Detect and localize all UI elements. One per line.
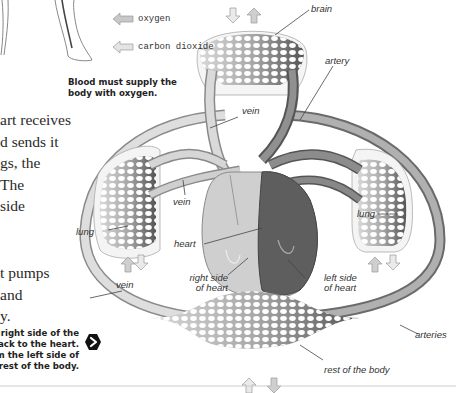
label-line: of heart	[170, 283, 228, 293]
label-vein-bottom: vein	[116, 280, 133, 290]
caption-line: right side of the	[0, 328, 79, 339]
label-brain: brain	[311, 4, 332, 14]
caption-line: body with oxygen.	[68, 88, 177, 99]
body-line: gs, the	[0, 152, 71, 174]
body-line: d sends it	[0, 131, 71, 153]
label-line: of heart	[324, 283, 357, 293]
caption-line: m the left side of	[0, 350, 79, 361]
body-line: t pumps	[0, 262, 50, 284]
next-button[interactable]	[84, 333, 102, 351]
body-line: The	[0, 174, 71, 196]
label-right-side-heart: right side of heart	[170, 273, 228, 293]
caption-line: ack to the heart.	[0, 339, 79, 350]
body-line: y.	[0, 305, 50, 327]
legend-label-oxygen: oxygen	[138, 14, 170, 24]
body-line: and	[0, 284, 50, 306]
next-arrow-icon	[84, 333, 102, 351]
body-text-upper: art receives d sends it gs, the The side	[0, 109, 71, 217]
right-lung-exchange-arrows	[368, 255, 400, 272]
body-line: art receives	[0, 109, 71, 131]
brain-exchange-arrows	[226, 8, 261, 23]
caption-line: Blood must supply the	[68, 77, 177, 88]
label-lung-left: lung	[76, 227, 94, 237]
label-heart: heart	[174, 239, 196, 249]
oxygen-arrow-icon	[112, 12, 134, 26]
label-vein-top: vein	[242, 106, 259, 116]
carbon-dioxide-arrow-icon	[112, 40, 134, 54]
label-arteries: arteries	[415, 330, 447, 340]
label-artery: artery	[325, 56, 349, 66]
label-lung-right: lung	[357, 209, 375, 219]
body-text-lower: t pumps and y.	[0, 262, 50, 327]
label-left-side-heart: left side of heart	[324, 273, 357, 293]
label-vein-mid: vein	[173, 197, 190, 207]
top-caption: Blood must supply the body with oxygen.	[68, 77, 177, 99]
leg-illustration	[1, 0, 92, 61]
legend-oxygen: oxygen	[112, 12, 170, 26]
bottom-caption: right side of the ack to the heart. m th…	[0, 328, 79, 372]
legend-carbon-dioxide: carbon dioxide	[112, 40, 214, 54]
label-rest-of-body: rest of the body	[324, 365, 389, 375]
body-line: side	[0, 195, 71, 217]
legend-label-carbon-dioxide: carbon dioxide	[138, 42, 214, 52]
caption-line: rest of the body.	[0, 361, 79, 372]
